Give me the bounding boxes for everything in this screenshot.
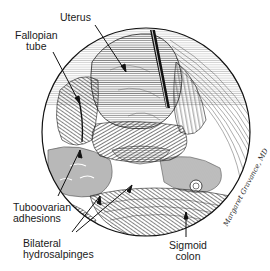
label-bilateral-line2: hydrosalpinges: [23, 249, 94, 260]
label-sigmoid-line2: colon: [169, 251, 207, 262]
label-tuboovarian-adhesions: Tuboovarian adhesions: [13, 202, 71, 224]
label-fallopian-line2: tube: [15, 41, 58, 52]
laparoscopic-view: [40, 26, 252, 240]
laparoscopic-illustration: Uterus Fallopian tube Tuboovarian adhesi…: [0, 0, 270, 271]
label-uterus-text: Uterus: [60, 11, 91, 23]
label-bilateral-hydrosalpinges: Bilateral hydrosalpinges: [23, 238, 94, 260]
label-sigmoid-colon: Sigmoid colon: [169, 240, 207, 262]
label-tuboovarian-line2: adhesions: [13, 213, 71, 224]
label-uterus: Uterus: [60, 12, 91, 23]
label-fallopian-tube: Fallopian tube: [15, 30, 58, 52]
